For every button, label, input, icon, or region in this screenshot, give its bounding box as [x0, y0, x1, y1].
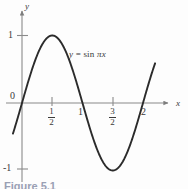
sine-curve-plot: [0, 0, 188, 189]
x-axis-label: x: [176, 99, 180, 108]
equation-lhs: y: [69, 49, 73, 59]
equation-function: sin: [83, 49, 94, 59]
fraction-numerator: 3: [109, 107, 116, 116]
equation-equals: =: [76, 49, 81, 59]
fraction-denominator: 2: [48, 118, 55, 127]
y-axis-label: y: [25, 2, 29, 11]
figure-caption: Figure 5.1: [4, 180, 56, 189]
equation-argument: πx: [97, 49, 106, 59]
y-tick-label-1: 1: [8, 30, 13, 40]
curve-equation-label: y = sin πx: [69, 50, 106, 59]
x-tick-label-one: 1: [78, 107, 83, 117]
fraction-denominator: 2: [109, 118, 116, 127]
figure-container: y x 0 1 -1 1 2 1 3 2 2 y = sin πx Figure…: [0, 0, 188, 189]
x-tick-label-two: 2: [141, 107, 146, 117]
x-tick-label-one-half: 1 2: [48, 107, 55, 128]
origin-tick-label: 0: [10, 91, 15, 101]
fraction-numerator: 1: [48, 107, 55, 116]
x-tick-label-three-halves: 3 2: [109, 107, 116, 128]
y-tick-label-neg1: -1: [3, 163, 11, 173]
